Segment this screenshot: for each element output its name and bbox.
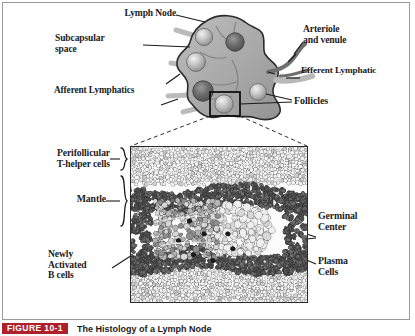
figure-number-badge: FIGURE 10-1	[2, 323, 68, 334]
label-perifollicular-t-helper-cells: Perifollicular T-helper cells	[24, 148, 110, 169]
figure-container: Lymph Node Subcapsular space Afferent Ly…	[0, 0, 415, 336]
label-arteriole-and-venule: Arteriole and venule	[303, 24, 403, 45]
label-germinal-center: Germinal Center	[318, 211, 408, 233]
micrograph-panel	[130, 146, 308, 303]
figure-caption: FIGURE 10-1 The Histology of a Lymph Nod…	[2, 323, 410, 336]
label-newly-activated-b-cells: Newly Activated B cells	[48, 249, 120, 281]
label-afferent-lymphatics: Afferent Lymphatics	[54, 85, 166, 95]
label-mantle: Mantle	[38, 194, 106, 205]
micrograph-canvas	[131, 147, 307, 302]
label-plasma-cells: Plasma Cells	[318, 256, 408, 278]
label-follicles: Follicles	[294, 95, 374, 106]
label-lymph-node: Lymph Node	[88, 8, 176, 19]
figure-caption-text: The Histology of a Lymph Node	[68, 323, 212, 334]
label-efferent-lymphatic: Efferent Lymphatic	[301, 65, 413, 75]
label-subcapsular-space: Subcapsular space	[55, 33, 145, 54]
